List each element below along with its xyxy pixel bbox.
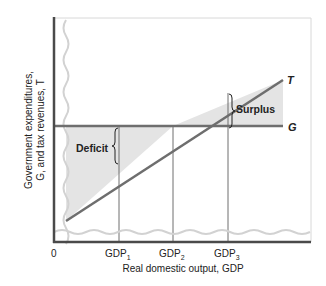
deficit-label: Deficit bbox=[76, 142, 109, 154]
gdp1-tick: GDP1 bbox=[105, 248, 131, 261]
surplus-label: Surplus bbox=[236, 103, 275, 115]
x-axis-label: Real domestic output, GDP bbox=[122, 263, 243, 274]
gdp3-tick: GDP3 bbox=[214, 248, 240, 261]
y-axis-label-line1: Government expenditures, bbox=[23, 71, 34, 189]
y-axis-label-line2: G, and tax revenues, T bbox=[35, 79, 46, 181]
axis-break-horizontal-icon bbox=[54, 230, 310, 234]
t-line-label: T bbox=[287, 74, 295, 86]
chart-canvas: T G Deficit Surplus 0 GDP1 GDP2 GDP3 Rea… bbox=[0, 0, 326, 286]
origin-tick: 0 bbox=[51, 248, 57, 259]
gdp2-tick: GDP2 bbox=[159, 248, 185, 261]
y-axis-label: Government expenditures, G, and tax reve… bbox=[23, 71, 46, 189]
g-line-label: G bbox=[288, 121, 297, 133]
